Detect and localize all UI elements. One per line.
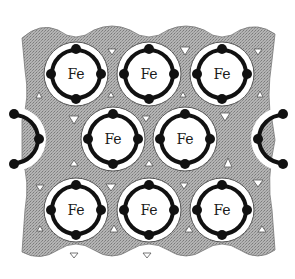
atom-label: Fe [176,131,193,147]
atom-label: Fe [140,202,157,218]
figure-caption [30,266,270,279]
atom-label: Fe [213,202,230,218]
atom-2-2: Fe [153,107,217,171]
atom-label: Fe [67,66,84,82]
atom-2-1: Fe [81,107,145,171]
atom-1-1: Fe [44,42,108,106]
atom-1-2: Fe [117,42,181,106]
atom-3-2: Fe [117,178,181,242]
atom-label: Fe [104,131,121,147]
atom-1-3: Fe [190,42,254,106]
lattice-diagram: Fe Fe Fe Fe Fe [0,0,295,279]
atom-label: Fe [140,66,157,82]
atom-label: Fe [67,202,84,218]
atom-3-3: Fe [190,178,254,242]
atom-3-1: Fe [44,178,108,242]
atom-label: Fe [213,66,230,82]
